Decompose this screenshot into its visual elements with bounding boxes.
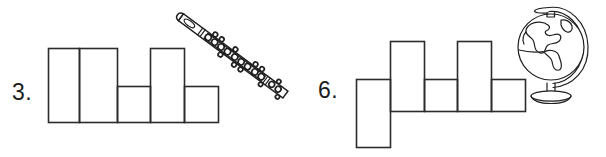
globe-icon	[503, 0, 606, 110]
bar-3	[118, 87, 151, 123]
bar-2	[391, 42, 425, 112]
bar-4	[458, 42, 492, 112]
bar-1	[357, 80, 391, 148]
bar-3	[425, 80, 458, 112]
problem-3: 3.	[0, 0, 303, 157]
problem-6: 6.	[303, 0, 606, 157]
flute-icon	[168, 0, 303, 110]
worksheet-page: 3.	[0, 0, 606, 157]
bar-1	[49, 49, 80, 123]
bar-2	[80, 49, 118, 123]
